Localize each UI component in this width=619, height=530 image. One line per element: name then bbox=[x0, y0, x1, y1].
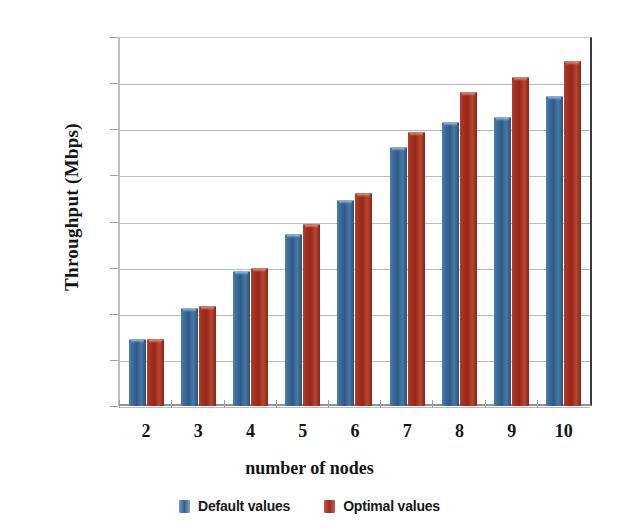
x-axis-tick-mark bbox=[537, 400, 538, 408]
bar[interactable] bbox=[233, 271, 250, 406]
bar[interactable] bbox=[285, 234, 302, 406]
y-axis-tick-mark bbox=[110, 222, 118, 223]
x-axis-tick-mark bbox=[119, 400, 120, 408]
bar[interactable] bbox=[390, 147, 407, 406]
bar-group bbox=[538, 37, 590, 406]
y-axis-tick-mark bbox=[110, 268, 118, 269]
x-axis-tick: 7 bbox=[381, 408, 433, 442]
chart-legend: Default valuesOptimal values bbox=[0, 498, 619, 514]
x-axis-tick-label: 9 bbox=[507, 408, 516, 442]
x-axis-tick: 2 bbox=[120, 408, 172, 442]
bar[interactable] bbox=[546, 96, 563, 406]
x-axis-tick: 10 bbox=[538, 408, 590, 442]
y-axis-tick-mark bbox=[110, 175, 118, 176]
bar-group bbox=[120, 37, 172, 406]
bar[interactable] bbox=[303, 224, 320, 406]
x-axis-title: number of nodes bbox=[0, 458, 619, 479]
x-axis-tick: 4 bbox=[225, 408, 277, 442]
bar[interactable] bbox=[460, 92, 477, 406]
x-axis-tick-label: 7 bbox=[403, 408, 412, 442]
x-axis-tick: 3 bbox=[172, 408, 224, 442]
x-axis-tick-label: 6 bbox=[350, 408, 359, 442]
bar[interactable] bbox=[408, 132, 425, 406]
legend-item[interactable]: Default values bbox=[179, 498, 290, 514]
bar[interactable] bbox=[494, 117, 511, 406]
bar[interactable] bbox=[442, 122, 459, 406]
bar[interactable] bbox=[199, 306, 216, 406]
x-axis-tick-label: 5 bbox=[298, 408, 307, 442]
x-axis-tick-group: 2345678910 bbox=[120, 408, 590, 442]
bar-group bbox=[486, 37, 538, 406]
bar[interactable] bbox=[337, 200, 354, 406]
bar-group bbox=[277, 37, 329, 406]
bar[interactable] bbox=[355, 193, 372, 406]
bar-group bbox=[381, 37, 433, 406]
y-axis-tick-mark bbox=[110, 129, 118, 130]
bar[interactable] bbox=[147, 339, 164, 406]
x-axis-tick-mark bbox=[276, 400, 277, 408]
x-axis-tick-label: 3 bbox=[194, 408, 203, 442]
y-axis-tick-mark bbox=[110, 37, 118, 38]
y-axis-tick-mark bbox=[110, 83, 118, 84]
y-axis-tick-mark bbox=[110, 406, 118, 407]
legend-swatch-red-icon bbox=[324, 500, 335, 513]
bar[interactable] bbox=[129, 339, 146, 406]
bar-groups bbox=[120, 37, 590, 406]
x-axis-tick-label: 2 bbox=[142, 408, 151, 442]
x-axis-tick: 5 bbox=[277, 408, 329, 442]
y-axis-tick-mark bbox=[110, 314, 118, 315]
bar-group bbox=[225, 37, 277, 406]
bar-chart-figure: Throughput (Mbps) 1.61.41.210.80.60.40.2… bbox=[0, 0, 619, 530]
bar[interactable] bbox=[251, 268, 268, 406]
bar-group bbox=[433, 37, 485, 406]
x-axis-tick-mark bbox=[171, 400, 172, 408]
x-axis-tick-mark bbox=[432, 400, 433, 408]
x-axis-tick-mark bbox=[328, 400, 329, 408]
y-axis-title: Throughput (Mbps) bbox=[61, 17, 83, 397]
bar[interactable] bbox=[564, 61, 581, 406]
y-axis-tick-mark bbox=[110, 360, 118, 361]
bar[interactable] bbox=[512, 77, 529, 406]
legend-label: Optimal values bbox=[343, 498, 440, 514]
x-axis-tick-mark bbox=[485, 400, 486, 408]
x-axis-tick: 8 bbox=[433, 408, 485, 442]
x-axis-tick-label: 4 bbox=[246, 408, 255, 442]
legend-item[interactable]: Optimal values bbox=[324, 498, 440, 514]
bar-group bbox=[172, 37, 224, 406]
x-axis-tick: 6 bbox=[329, 408, 381, 442]
x-axis-tick-mark bbox=[224, 400, 225, 408]
legend-label: Default values bbox=[198, 498, 290, 514]
bar[interactable] bbox=[181, 308, 198, 406]
x-axis-tick: 9 bbox=[486, 408, 538, 442]
legend-swatch-blue-icon bbox=[179, 500, 190, 513]
x-axis-tick-label: 10 bbox=[555, 408, 573, 442]
x-axis-tick-label: 8 bbox=[455, 408, 464, 442]
x-axis-tick-mark bbox=[380, 400, 381, 408]
bar-group bbox=[329, 37, 381, 406]
